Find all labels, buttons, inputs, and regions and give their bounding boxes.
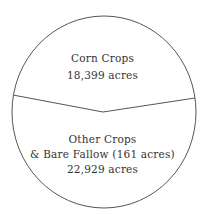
corn-crops-label: Corn Crops — [0, 52, 205, 64]
bare-fallow-label: & Bare Fallow (161 acres) — [0, 148, 205, 160]
pie-chart-graphic — [0, 0, 205, 214]
corn-crops-value: 18,399 acres — [0, 69, 205, 81]
pie-chart: Corn Crops 18,399 acres Other Crops & Ba… — [0, 0, 205, 214]
other-crops-value: 22,929 acres — [0, 163, 205, 175]
other-crops-label: Other Crops — [0, 133, 205, 145]
